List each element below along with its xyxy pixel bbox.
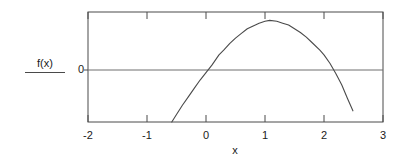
y-axis-label-rule (25, 72, 65, 73)
x-tick-label--1: -1 (135, 130, 159, 141)
x-tick-label-0: 0 (194, 130, 218, 141)
x-tick-label--2: -2 (76, 130, 100, 141)
x-tick-label-3: 3 (371, 130, 395, 141)
function-plot-figure: f(x) 0 -2 -1 0 1 2 3 x (0, 0, 402, 159)
plot-frame (88, 12, 383, 122)
x-tick-label-1: 1 (253, 130, 277, 141)
function-curve (172, 20, 353, 122)
zero-level-label: 0 (70, 64, 84, 75)
x-tick-label-2: 2 (312, 130, 336, 141)
y-axis-label-group: f(x) (22, 57, 68, 73)
x-axis-ticks-top (88, 12, 383, 19)
y-axis-label: f(x) (22, 57, 68, 69)
x-axis-label: x (223, 145, 247, 156)
x-axis-ticks-bottom (88, 115, 383, 122)
